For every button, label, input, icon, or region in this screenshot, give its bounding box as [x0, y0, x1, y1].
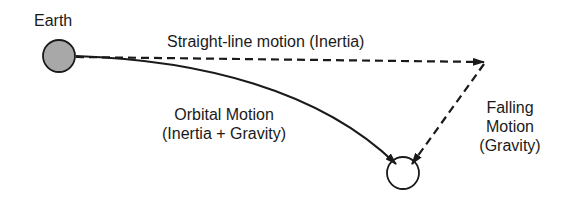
orbital-motion-label: Orbital Motion (Inertia + Gravity)	[144, 105, 304, 143]
falling-motion-label-line2: Motion	[470, 117, 550, 136]
straight-line-motion-label: Straight-line motion (Inertia)	[167, 32, 364, 51]
falling-motion-label: Falling Motion (Gravity)	[470, 98, 550, 155]
falling-motion-label-line1: Falling	[470, 98, 550, 117]
orbiting-object-circle	[387, 157, 419, 189]
orbital-motion-label-line1: Orbital Motion	[144, 105, 304, 124]
earth-label: Earth	[34, 11, 72, 30]
earth-circle	[43, 40, 75, 72]
orbital-motion-label-line2: (Inertia + Gravity)	[144, 124, 304, 143]
falling-motion-label-line3: (Gravity)	[470, 136, 550, 155]
